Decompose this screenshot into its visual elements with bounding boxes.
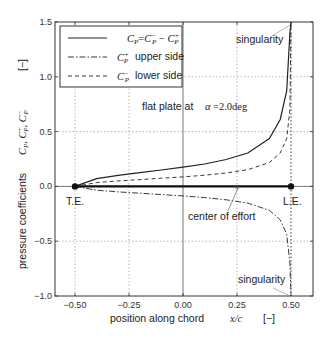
y-axis-unit: [−] [16, 59, 28, 71]
svg-text:C−P: C−P [117, 70, 130, 84]
svg-text:C+P: C+P [117, 51, 129, 65]
center-of-effort-marker: × [235, 184, 239, 191]
x-axis-label: position along chord [110, 312, 204, 324]
x-axis-var: x/c [229, 313, 243, 324]
x-tick-label: 0.25 [228, 300, 246, 310]
y-axis-vars: CP, C+P, C−P [16, 109, 30, 155]
x-axis-unit: [−] [263, 312, 275, 324]
y-axis-label-group: pressure coefficients CP, C+P, C−P [−] [16, 59, 30, 269]
x-tick-label: −0.50 [64, 300, 87, 310]
singularity-top-label: singularity [236, 33, 284, 45]
trailing-edge-marker [72, 183, 78, 189]
y-axis-label: pressure coefficients [16, 173, 28, 269]
y-tick-label: −1.0 [34, 291, 52, 301]
center-of-effort-label: center of effort [188, 210, 256, 222]
y-tick-label: 1.5 [39, 17, 52, 27]
y-tick-label: 0.5 [39, 127, 52, 137]
pressure-coefficient-chart: −0.50−0.250.000.250.50−1.0−0.50.00.51.01… [0, 0, 331, 342]
legend-label-upper: upper side [135, 50, 184, 62]
alpha-value: =2.0deg [213, 101, 248, 112]
y-tick-label: 0.0 [39, 181, 52, 191]
x-tick-label: −0.25 [118, 300, 141, 310]
singularity-bottom-label: singularity [238, 273, 286, 285]
x-tick-label: 0.00 [174, 300, 192, 310]
alpha-symbol: α [205, 101, 211, 112]
y-tick-label: 1.0 [39, 72, 52, 82]
legend: CP=C−P − C+P C+P upper side C−P lower si… [60, 26, 184, 87]
flat-plate-label: flat plate at [142, 100, 193, 112]
y-tick-label: −0.5 [34, 236, 52, 246]
leading-edge-marker [288, 183, 294, 189]
trailing-edge-label: T.E. [66, 195, 84, 207]
x-tick-label: 0.50 [282, 300, 300, 310]
legend-label-lower: lower side [135, 69, 182, 81]
leading-edge-label: L.E. [283, 195, 302, 207]
